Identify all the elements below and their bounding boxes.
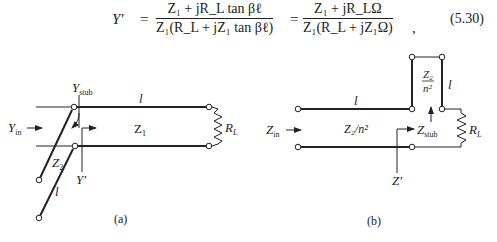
label-stub-length: l <box>55 184 59 199</box>
figure-a: Ystub l Yin Z1 RL Z2 Y′ l (a) <box>8 80 238 226</box>
label-y-in: Yin <box>8 120 21 137</box>
label-y-stub: Ystub <box>72 80 93 97</box>
label-z2: Z2 <box>52 155 63 172</box>
label-line-length: l <box>354 93 358 108</box>
label-line-length: l <box>139 91 143 106</box>
circuit-figures: Ystub l Yin Z1 RL Z2 Y′ l (a) <box>0 0 497 242</box>
terminal <box>439 54 445 60</box>
terminal <box>36 177 42 183</box>
y-stub-arrow-icon <box>72 113 79 128</box>
label-line-impedance: Z₂/n² <box>344 122 368 136</box>
terminal <box>71 104 77 110</box>
label-z-prime: Z′ <box>392 173 402 188</box>
figure-b: l Zin Z₂/n² Zstub Z₂ n² l RL Z′ (b) <box>266 54 482 228</box>
caption-b: (b) <box>367 214 381 228</box>
label-stub-impedance-num: Z₂ <box>423 68 433 80</box>
terminal <box>72 143 78 149</box>
terminal <box>206 143 212 149</box>
label-rl: RL <box>224 120 238 137</box>
label-z-stub: Zstub <box>417 122 438 139</box>
label-stub-impedance-den: n² <box>423 82 433 94</box>
label-rl: RL <box>468 122 482 139</box>
label-z1: Z1 <box>134 121 146 138</box>
terminal <box>409 54 415 60</box>
resistor-rl <box>212 107 222 146</box>
caption-a: (a) <box>114 212 127 226</box>
label-z-in: Zin <box>266 122 279 139</box>
terminal <box>206 104 212 110</box>
terminal <box>295 144 301 150</box>
terminal <box>36 215 42 221</box>
terminal <box>409 106 415 112</box>
terminal <box>295 106 301 112</box>
label-stub-length: l <box>448 77 452 92</box>
terminal <box>409 144 415 150</box>
resistor-rl <box>457 109 466 147</box>
terminal <box>439 106 445 112</box>
label-y-prime: Y′ <box>76 172 86 187</box>
